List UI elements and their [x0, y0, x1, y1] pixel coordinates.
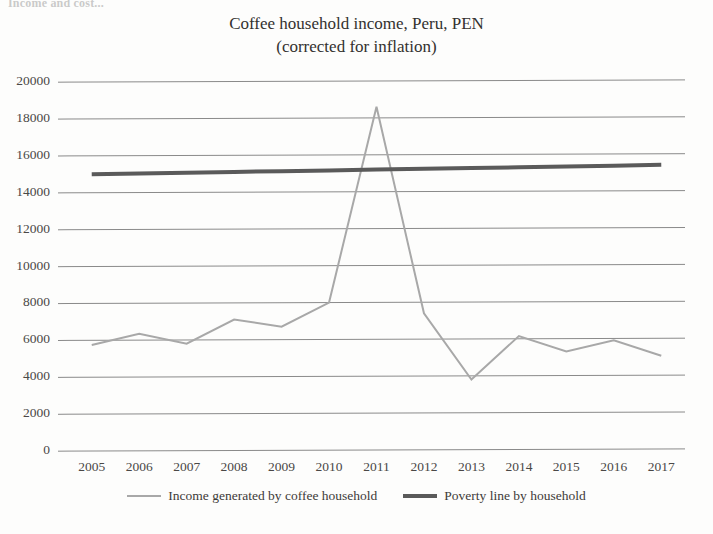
x-tick-label: 2008: [208, 459, 260, 475]
gridline: [68, 117, 685, 119]
x-tick-label: 2011: [351, 459, 403, 475]
x-tick-label: 2014: [493, 459, 545, 475]
gridline: [68, 80, 685, 82]
legend-label-poverty: Poverty line by household: [444, 488, 585, 504]
legend-item-poverty[interactable]: Poverty line by household: [403, 488, 585, 504]
gridlines: [68, 80, 685, 451]
y-tick-label: 20000: [0, 73, 50, 89]
y-tick-label: 14000: [0, 184, 50, 200]
x-tick-label: 2015: [540, 459, 592, 475]
gridline: [68, 264, 685, 266]
legend-item-income[interactable]: Income generated by coffee household: [127, 488, 377, 504]
x-tick-label: 2005: [66, 459, 118, 475]
series-line-poverty: [92, 165, 662, 174]
x-tick-label: 2007: [161, 459, 213, 475]
gridline: [68, 412, 685, 414]
gridline: [68, 301, 685, 303]
legend-swatch-income-icon: [127, 495, 161, 497]
gridline: [68, 191, 685, 193]
x-tick-label: 2009: [256, 459, 308, 475]
y-tick-label: 12000: [0, 221, 50, 237]
gridline: [68, 375, 685, 377]
y-tick-label: 4000: [0, 368, 50, 384]
plot-area: [0, 0, 713, 534]
chart-legend: Income generated by coffee household Pov…: [0, 488, 713, 504]
y-tick-label: 16000: [0, 147, 50, 163]
x-tick-label: 2006: [113, 459, 165, 475]
y-tick-label: 8000: [0, 294, 50, 310]
x-tick-label: 2016: [588, 459, 640, 475]
x-tick-label: 2013: [445, 459, 497, 475]
y-tick-label: 6000: [0, 331, 50, 347]
gridline: [68, 449, 685, 451]
y-tick-marks: [58, 82, 68, 451]
x-tick-label: 2012: [398, 459, 450, 475]
y-tick-label: 0: [0, 442, 50, 458]
chart-figure: Coffee household income, Peru, PEN (corr…: [0, 0, 713, 534]
legend-swatch-poverty-icon: [403, 494, 437, 498]
y-tick-label: 18000: [0, 110, 50, 126]
gridline: [68, 154, 685, 156]
y-tick-label: 2000: [0, 405, 50, 421]
x-tick-label: 2010: [303, 459, 355, 475]
x-tick-label: 2017: [635, 459, 687, 475]
gridline: [68, 228, 685, 230]
y-tick-label: 10000: [0, 258, 50, 274]
legend-label-income: Income generated by coffee household: [168, 488, 377, 504]
